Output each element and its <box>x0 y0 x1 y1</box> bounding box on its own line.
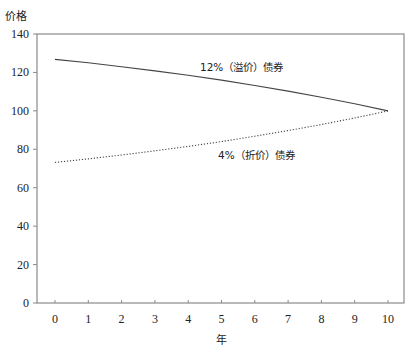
y-tick-label: 20 <box>17 258 29 272</box>
annotation-layer: 12%（溢价）债券4%（折价）债券 <box>200 61 296 161</box>
x-axis: 012345678910 <box>52 300 394 326</box>
x-tick-label: 9 <box>352 312 358 326</box>
x-tick-label: 6 <box>252 312 258 326</box>
y-tick-label: 40 <box>17 219 29 233</box>
x-axis-title: 年 <box>216 333 227 347</box>
y-tick-label: 120 <box>11 65 29 79</box>
x-tick-label: 5 <box>219 312 225 326</box>
bond-price-chart: 020406080100120140 012345678910 12%（溢价）债… <box>0 0 414 357</box>
x-tick-label: 3 <box>152 312 158 326</box>
y-axis-title: 价格 <box>5 9 27 23</box>
y-tick-label: 80 <box>17 142 29 156</box>
x-tick-label: 4 <box>185 312 191 326</box>
premium-bond-label: 12%（溢价）债券 <box>200 61 284 73</box>
y-tick-label: 100 <box>11 104 29 118</box>
x-tick-label: 10 <box>382 312 394 326</box>
x-tick-label: 1 <box>85 312 91 326</box>
series-layer <box>55 59 388 162</box>
y-tick-label: 60 <box>17 181 29 195</box>
x-tick-label: 7 <box>285 312 291 326</box>
discount-bond-label: 4%（折价）债券 <box>218 149 296 161</box>
plot-border <box>37 34 404 303</box>
plot-frame <box>37 34 404 303</box>
x-tick-label: 0 <box>52 312 58 326</box>
y-axis: 020406080100120140 <box>11 27 37 310</box>
y-tick-label: 140 <box>11 27 29 41</box>
x-tick-label: 2 <box>119 312 125 326</box>
y-tick-label: 0 <box>23 296 29 310</box>
x-tick-label: 8 <box>318 312 324 326</box>
